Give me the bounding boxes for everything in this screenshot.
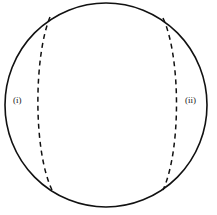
sphere-diagram [0,0,217,215]
region-label-ii: (ii) [185,96,196,105]
left-dashed-meridian-arc [38,17,52,190]
region-label-i: (i) [13,96,22,105]
right-dashed-meridian-arc [163,18,177,190]
figure-canvas: (i) (ii) [0,0,217,215]
sphere-outline-circle [5,3,207,207]
